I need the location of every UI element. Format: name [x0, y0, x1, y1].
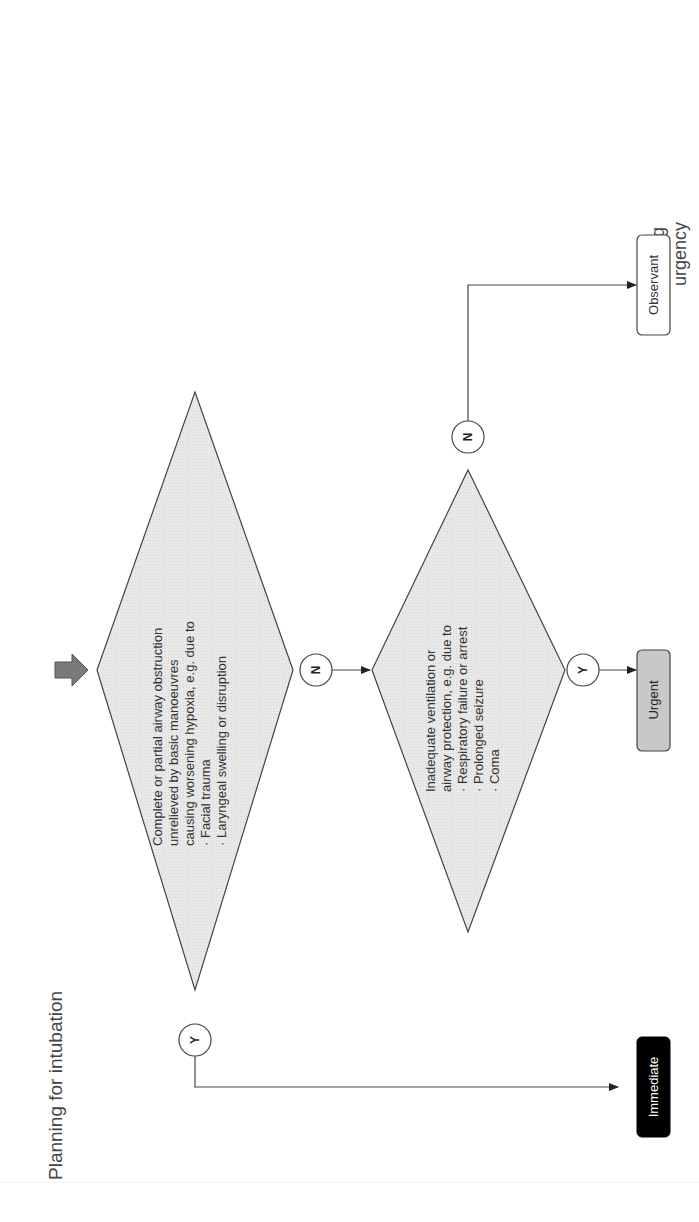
no-connector-1: N [300, 654, 370, 686]
yes-connector-2: Y [567, 654, 636, 686]
no-connector-2: N [452, 285, 636, 453]
flowchart: Planning for intubation Assessing urgenc… [0, 0, 699, 1222]
decision-airway-obstruction: Complete or partial airway obstruction u… [97, 392, 293, 990]
svg-text:Immediate: Immediate [646, 1057, 661, 1118]
yes-connector-1: Y [179, 1024, 618, 1087]
svg-text:N: N [461, 433, 475, 442]
svg-text:Y: Y [188, 1036, 202, 1044]
page-title: Planning for intubation [45, 991, 66, 1180]
svg-text:Observant: Observant [646, 255, 661, 315]
entry-arrow-icon [55, 654, 88, 686]
svg-text:N: N [309, 666, 323, 675]
svg-text:Planning for intubation: Planning for intubation [45, 991, 66, 1180]
outcome-observant: Observant [637, 235, 670, 335]
outcome-urgent: Urgent [637, 650, 670, 751]
svg-text:Urgent: Urgent [646, 680, 661, 719]
decision-inadequate-ventilation: Inadequate ventilation or airway protect… [372, 470, 565, 932]
outcome-immediate: Immediate [637, 1037, 670, 1137]
svg-text:Y: Y [576, 666, 590, 674]
